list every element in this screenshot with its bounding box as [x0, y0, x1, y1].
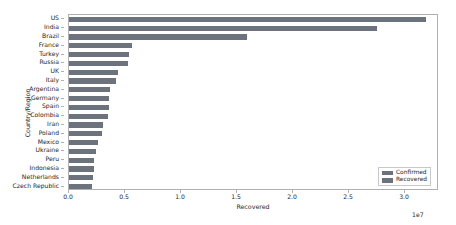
y-tick-mark [61, 124, 64, 125]
y-tick-mark [61, 142, 64, 143]
y-tick-mark [61, 115, 64, 116]
x-tick-mark [180, 190, 181, 193]
bar-recovered-spain [69, 105, 109, 110]
y-tick-label: Iran [47, 121, 59, 127]
bar-chart-figure: Country/Region USIndiaBrazilFranceTurkey… [0, 0, 456, 225]
x-tick-mark [124, 190, 125, 193]
y-tick-label: Brazil [42, 33, 59, 39]
y-tick-mark [61, 98, 64, 99]
x-tick-mark [348, 190, 349, 193]
x-axis-exponent-label: 1e7 [412, 211, 424, 218]
legend-swatch-icon [382, 178, 393, 183]
legend-entry-recovered: Recovered [382, 177, 427, 183]
y-tick-mark [61, 89, 64, 90]
y-tick-mark [61, 27, 64, 28]
bar-recovered-netherlands [69, 175, 93, 180]
bar-recovered-italy [69, 78, 116, 83]
y-tick-mark [61, 186, 64, 187]
bar-recovered-colombia [69, 114, 108, 119]
y-tick-mark [61, 159, 64, 160]
chart-legend: ConfirmedRecovered [378, 167, 431, 186]
y-tick-label: US [51, 15, 59, 21]
x-tick-mark [236, 190, 237, 193]
bar-recovered-brazil [69, 34, 247, 39]
y-tick-label: Germany [31, 95, 59, 101]
y-tick-label: Colombia [30, 112, 59, 118]
x-tick-mark [404, 190, 405, 193]
bar-recovered-france [69, 43, 132, 48]
y-tick-mark [61, 133, 64, 134]
y-tick-mark [61, 54, 64, 55]
y-tick-label: Peru [45, 156, 59, 162]
y-tick-mark [61, 71, 64, 72]
y-tick-mark [61, 62, 64, 63]
y-tick-mark [61, 177, 64, 178]
legend-label: Recovered [396, 177, 427, 183]
y-tick-label: France [39, 42, 59, 48]
x-tick-label: 3.0 [399, 194, 409, 200]
y-tick-label: Italy [46, 77, 59, 83]
legend-swatch-icon [382, 171, 393, 176]
bar-recovered-poland [69, 131, 102, 136]
bar-recovered-turkey [69, 52, 129, 57]
y-tick-mark [61, 106, 64, 107]
x-tick-mark [68, 190, 69, 193]
y-tick-label: Czech Republic [13, 183, 59, 189]
y-tick-label: Poland [39, 130, 59, 136]
y-tick-mark [61, 80, 64, 81]
bar-recovered-us [69, 17, 426, 22]
x-tick-mark [292, 190, 293, 193]
bar-recovered-argentina [69, 87, 110, 92]
bar-recovered-indonesia [69, 166, 94, 171]
bar-recovered-mexico [69, 140, 98, 145]
x-tick-label: 2.0 [287, 194, 297, 200]
y-tick-label: Ukraine [35, 147, 59, 153]
y-tick-label: Spain [42, 103, 59, 109]
y-tick-label: India [44, 24, 59, 30]
bar-recovered-ukraine [69, 149, 96, 154]
y-tick-label: UK [51, 68, 59, 74]
y-tick-mark [61, 45, 64, 46]
bar-recovered-peru [69, 158, 94, 163]
y-tick-label: Netherlands [22, 174, 59, 180]
bar-recovered-iran [69, 122, 103, 127]
y-tick-label: Turkey [39, 51, 59, 57]
bar-recovered-germany [69, 96, 109, 101]
bar-recovered-czech-republic [69, 184, 92, 189]
x-tick-label: 2.5 [343, 194, 353, 200]
bar-recovered-russia [69, 61, 128, 66]
y-tick-label: Indonesia [30, 165, 59, 171]
plot-area [68, 14, 438, 190]
x-tick-label: 0.0 [63, 194, 73, 200]
y-tick-mark [61, 150, 64, 151]
y-tick-label: Argentina [29, 86, 59, 92]
y-tick-mark [61, 36, 64, 37]
y-tick-label: Mexico [38, 139, 59, 145]
legend-label: Confirmed [396, 170, 427, 176]
y-axis-tick-labels: USIndiaBrazilFranceTurkeyRussiaUKItalyAr… [0, 14, 64, 190]
y-tick-label: Russia [39, 59, 59, 65]
bar-recovered-uk [69, 70, 118, 75]
y-tick-mark [61, 168, 64, 169]
x-tick-label: 1.5 [231, 194, 241, 200]
x-tick-label: 0.5 [119, 194, 129, 200]
bar-recovered-india [69, 26, 377, 31]
x-tick-label: 1.0 [175, 194, 185, 200]
legend-entry-confirmed: Confirmed [382, 170, 427, 176]
x-axis-title: Recovered [68, 203, 438, 210]
y-tick-mark [61, 18, 64, 19]
